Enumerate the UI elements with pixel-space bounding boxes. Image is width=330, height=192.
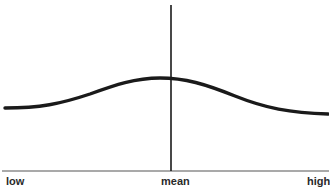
bell-curve [5,78,328,114]
mean-label: mean [161,174,190,188]
high-label: high [307,174,330,188]
low-label: low [6,174,24,188]
